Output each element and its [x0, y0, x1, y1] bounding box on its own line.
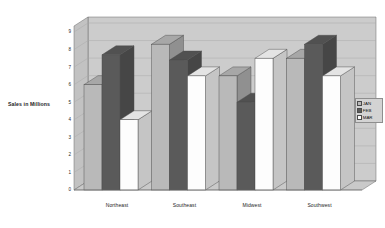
- x-category-label: Midwest: [220, 202, 284, 208]
- x-category-label: Northeast: [85, 202, 149, 208]
- legend-item[interactable]: MAR: [357, 114, 381, 121]
- legend-swatch-icon: [357, 108, 361, 112]
- legend-swatch-icon: [357, 101, 361, 105]
- y-tick-label: 8: [61, 47, 71, 52]
- y-tick-label: 2: [61, 152, 71, 157]
- legend-swatch-icon: [357, 115, 361, 119]
- y-tick-label: 4: [61, 117, 71, 122]
- legend-label: MAR: [363, 115, 373, 120]
- y-tick-label: 5: [61, 100, 71, 105]
- legend-item[interactable]: FEB: [357, 107, 381, 114]
- plot-area: [66, 8, 368, 200]
- legend-label: FEB: [363, 108, 372, 113]
- bar-midwest-mar: [255, 49, 287, 190]
- y-tick-label: 0: [61, 187, 71, 192]
- plot-svg: [66, 8, 368, 200]
- y-tick-label: 3: [61, 135, 71, 140]
- legend: JANFEBMAR: [355, 98, 383, 123]
- bar-chart: Sales in Millions 0123456789 NortheastSo…: [0, 0, 385, 228]
- legend-item[interactable]: JAN: [357, 100, 381, 107]
- x-category-label: Southwest: [288, 202, 352, 208]
- y-tick-label: 6: [61, 82, 71, 87]
- bar-southeast-mar: [188, 67, 220, 190]
- y-tick-label: 9: [61, 29, 71, 34]
- bar-southwest-mar: [323, 67, 355, 190]
- x-category-label: Southeast: [153, 202, 217, 208]
- bar-northeast-mar: [120, 111, 152, 190]
- legend-label: JAN: [363, 101, 371, 106]
- y-axis-title: Sales in Millions: [8, 101, 62, 108]
- y-tick-label: 7: [61, 65, 71, 70]
- y-tick-label: 1: [61, 170, 71, 175]
